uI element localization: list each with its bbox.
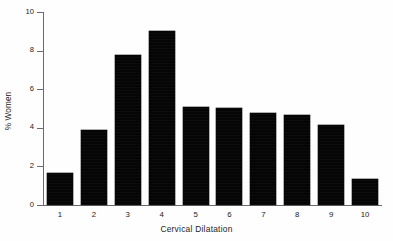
x-tick-label: 7 <box>249 209 277 220</box>
bar <box>47 173 73 205</box>
bar <box>318 125 344 205</box>
y-tick-label: 0 <box>30 200 34 210</box>
x-tick-label: 1 <box>46 209 74 220</box>
x-tick-label: 8 <box>283 209 311 220</box>
bar <box>284 115 310 205</box>
x-axis-line <box>43 205 382 206</box>
scan-grain <box>47 173 73 205</box>
bar <box>183 107 209 205</box>
scan-grain <box>284 115 310 205</box>
bar <box>81 130 107 205</box>
scan-grain <box>149 31 175 205</box>
y-tick-mark <box>37 205 43 206</box>
bar <box>352 179 378 205</box>
scan-grain <box>115 55 141 205</box>
x-tick-label: 3 <box>114 209 142 220</box>
scan-grain <box>318 125 344 205</box>
bar <box>250 113 276 205</box>
scan-grain <box>183 107 209 205</box>
bar-chart-figure: % Women 0246810 12345678910 Cervical Dil… <box>0 0 393 241</box>
x-tick-label: 10 <box>351 209 379 220</box>
scan-grain <box>81 130 107 205</box>
x-tick-label: 9 <box>317 209 345 220</box>
y-axis-title: % Women <box>4 79 18 143</box>
x-tick-label: 5 <box>182 209 210 220</box>
x-tick-label: 2 <box>80 209 108 220</box>
bar <box>115 55 141 205</box>
y-tick-label: 2 <box>30 161 34 171</box>
y-tick-label: 10 <box>26 7 34 17</box>
scan-grain <box>352 179 378 205</box>
y-tick-label: 8 <box>30 45 34 55</box>
y-tick-label: 4 <box>30 122 34 132</box>
y-tick-label: 6 <box>30 84 34 94</box>
bar <box>216 108 242 205</box>
x-tick-label: 4 <box>148 209 176 220</box>
scan-grain <box>250 113 276 205</box>
plot-area <box>43 12 382 205</box>
x-tick-label: 6 <box>215 209 243 220</box>
scan-grain <box>216 108 242 205</box>
x-axis-title: Cervical Dilatation <box>0 224 393 234</box>
y-tick: 0 <box>37 205 43 206</box>
bar <box>149 31 175 205</box>
